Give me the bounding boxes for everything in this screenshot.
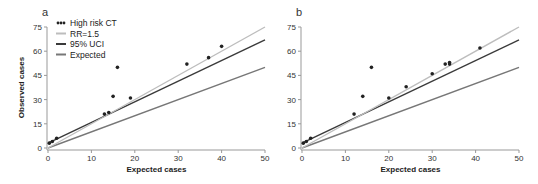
legend-label: RR=1.5 [70,29,99,39]
data-point [116,66,120,70]
data-points [48,45,224,145]
y-tick-label: 15 [287,120,296,129]
y-tick-label: 45 [33,71,42,80]
panel-label: b [296,6,302,18]
legend-dot-icon [60,22,63,25]
y-axis-label: Observed cases [17,56,26,118]
series-line-rr-1-5 [302,27,519,148]
x-tick-label: 20 [384,154,393,163]
series-line-expected [302,67,519,148]
data-point [129,96,133,100]
data-point [48,141,52,145]
legend: High risk CTRR=1.595% UCIExpected [56,18,117,60]
y-tick-label: 45 [287,71,296,80]
legend-label: Expected [70,50,106,60]
x-tick-label: 40 [217,154,226,163]
data-point [361,95,365,99]
x-tick-label: 0 [300,154,305,163]
data-point [302,141,306,145]
x-tick-label: 50 [515,154,524,163]
x-tick-label: 10 [341,154,350,163]
series-line-expected [48,67,265,148]
data-point [207,56,211,60]
data-point [305,140,309,144]
panel-a: a0153045607501020304050Expected casesObs… [17,6,270,174]
figure: a0153045607501020304050Expected casesObs… [0,0,538,184]
x-tick-label: 30 [428,154,437,163]
x-tick-label: 40 [471,154,480,163]
data-point [51,140,55,144]
data-point [387,96,391,100]
data-point [103,112,107,116]
legend-label: 95% UCI [70,39,104,49]
y-tick-label: 30 [33,96,42,105]
data-point [111,95,115,99]
x-axis-label: Expected cases [380,165,441,174]
data-point [430,72,434,76]
legend-label: High risk CT [70,18,117,28]
y-tick-label: 75 [33,23,42,32]
data-point [107,111,111,115]
y-tick-label: 0 [292,144,297,153]
data-point [185,62,189,66]
data-point [478,46,482,50]
y-tick-label: 0 [38,144,43,153]
legend-dot-icon [63,22,66,25]
panel-label: a [42,6,49,18]
y-tick-label: 15 [33,120,42,129]
legend-dot-icon [57,22,60,25]
x-tick-label: 20 [130,154,139,163]
y-tick-label: 60 [33,47,42,56]
panel-b: b0153045607501020304050Expected cases [287,6,524,174]
data-point [448,61,452,65]
data-point [404,85,408,89]
y-tick-label: 60 [287,47,296,56]
x-tick-label: 50 [261,154,270,163]
data-point [370,66,374,70]
data-point [220,45,224,49]
data-point [352,112,356,116]
x-tick-label: 10 [87,154,96,163]
data-point [443,62,447,66]
y-tick-label: 30 [287,96,296,105]
data-point [309,137,313,141]
x-tick-label: 30 [174,154,183,163]
series-line-95-uci [302,40,519,143]
x-tick-label: 0 [46,154,51,163]
y-tick-label: 75 [287,23,296,32]
x-axis-label: Expected cases [126,165,187,174]
data-point [55,137,59,141]
